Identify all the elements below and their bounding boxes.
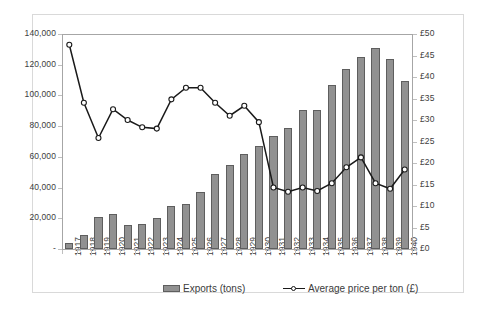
x-tick bbox=[106, 250, 107, 254]
bar bbox=[313, 110, 321, 249]
y-tick-right bbox=[413, 77, 417, 78]
x-tick bbox=[354, 250, 355, 254]
plot-top-line bbox=[62, 34, 413, 35]
y-axis-right-tick-label: £0 bbox=[420, 243, 430, 253]
y-tick-left bbox=[58, 218, 62, 219]
x-tick bbox=[150, 250, 151, 254]
bar bbox=[371, 48, 379, 249]
y-tick-right bbox=[413, 120, 417, 121]
chart-container: -20,00040,00060,00080,000100,000120,0001… bbox=[0, 0, 497, 312]
x-tick bbox=[77, 250, 78, 254]
x-tick bbox=[310, 250, 311, 254]
bar bbox=[153, 218, 161, 249]
bar bbox=[109, 214, 117, 249]
x-tick bbox=[62, 250, 63, 254]
bar bbox=[284, 128, 292, 249]
y-axis-left-line bbox=[62, 34, 63, 250]
y-axis-right-tick-label: £45 bbox=[420, 50, 434, 60]
y-axis-right-tick-label: £25 bbox=[420, 136, 434, 146]
x-tick bbox=[266, 250, 267, 254]
x-tick bbox=[295, 250, 296, 254]
y-tick-right bbox=[413, 249, 417, 250]
x-axis-tick-label: 1940 bbox=[409, 237, 419, 256]
x-tick bbox=[222, 250, 223, 254]
y-tick-left bbox=[58, 95, 62, 96]
x-tick bbox=[281, 250, 282, 254]
y-axis-right-tick-label: £10 bbox=[420, 200, 434, 210]
legend-item-price: Average price per ton (£) bbox=[283, 283, 418, 294]
bar bbox=[255, 146, 263, 249]
x-tick bbox=[325, 250, 326, 254]
y-tick-right bbox=[413, 228, 417, 229]
y-tick-left bbox=[58, 126, 62, 127]
bar bbox=[94, 217, 102, 249]
y-tick-left bbox=[58, 65, 62, 66]
y-axis-right-tick-label: £15 bbox=[420, 179, 434, 189]
y-tick-left bbox=[58, 157, 62, 158]
legend-label-price: Average price per ton (£) bbox=[308, 283, 418, 294]
x-tick bbox=[164, 250, 165, 254]
y-tick-right bbox=[413, 99, 417, 100]
y-tick-right bbox=[413, 185, 417, 186]
y-tick-left bbox=[58, 188, 62, 189]
y-tick-right bbox=[413, 163, 417, 164]
x-tick bbox=[179, 250, 180, 254]
x-tick bbox=[135, 250, 136, 254]
y-tick-right bbox=[413, 206, 417, 207]
bar bbox=[124, 225, 132, 249]
y-tick-left bbox=[58, 34, 62, 35]
bar bbox=[196, 192, 204, 249]
y-tick-right bbox=[413, 34, 417, 35]
bar bbox=[80, 235, 88, 249]
y-axis-left-tick-label: 40,000 bbox=[8, 182, 56, 192]
bar bbox=[182, 204, 190, 249]
y-axis-left-tick-label: 120,000 bbox=[8, 59, 56, 69]
x-tick bbox=[368, 250, 369, 254]
y-tick-right bbox=[413, 56, 417, 57]
legend-label-exports: Exports (tons) bbox=[183, 283, 245, 294]
y-axis-left-tick-label: - bbox=[8, 243, 56, 253]
legend-item-exports: Exports (tons) bbox=[163, 283, 245, 294]
y-axis-right-tick-label: £35 bbox=[420, 93, 434, 103]
x-tick bbox=[397, 250, 398, 254]
y-axis-right-tick-label: £20 bbox=[420, 157, 434, 167]
bar bbox=[299, 110, 307, 249]
y-axis-left-tick-label: 140,000 bbox=[8, 28, 56, 38]
x-tick bbox=[237, 250, 238, 254]
bar bbox=[226, 165, 234, 249]
y-axis-right-tick-label: £30 bbox=[420, 114, 434, 124]
bar bbox=[65, 243, 73, 249]
bar bbox=[328, 85, 336, 249]
line-marker-swatch-icon bbox=[283, 285, 305, 292]
y-axis-left-tick-label: 100,000 bbox=[8, 89, 56, 99]
y-axis-right-tick-label: £50 bbox=[420, 28, 434, 38]
bar bbox=[211, 174, 219, 249]
bar bbox=[167, 206, 175, 249]
y-tick-right bbox=[413, 142, 417, 143]
bar bbox=[401, 81, 409, 249]
x-tick bbox=[193, 250, 194, 254]
bar bbox=[342, 69, 350, 249]
x-tick bbox=[208, 250, 209, 254]
x-tick bbox=[91, 250, 92, 254]
x-tick bbox=[412, 250, 413, 254]
y-axis-right-tick-label: £40 bbox=[420, 71, 434, 81]
y-axis-left-tick-label: 20,000 bbox=[8, 212, 56, 222]
y-axis-right-tick-label: £5 bbox=[420, 222, 430, 232]
bar-swatch-icon bbox=[163, 285, 180, 292]
x-tick bbox=[383, 250, 384, 254]
bar bbox=[138, 224, 146, 249]
y-axis-left-tick-label: 80,000 bbox=[8, 120, 56, 130]
x-tick bbox=[252, 250, 253, 254]
y-axis-left-tick-label: 60,000 bbox=[8, 151, 56, 161]
bar bbox=[357, 57, 365, 249]
bar bbox=[240, 154, 248, 249]
bar bbox=[386, 59, 394, 249]
x-tick bbox=[120, 250, 121, 254]
x-tick bbox=[339, 250, 340, 254]
bar bbox=[269, 136, 277, 249]
